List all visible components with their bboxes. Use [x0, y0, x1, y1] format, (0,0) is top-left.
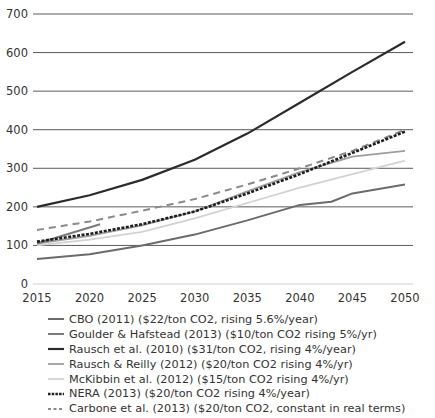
legend-item: Rausch et al. (2010) ($31/ton CO2, risin… — [48, 342, 433, 357]
x-axis-ticks: 20152020202520302035204020452050 — [22, 291, 419, 305]
x-tick-label: 2025 — [128, 291, 157, 305]
y-axis-ticks: 0100200300400500600700 — [6, 7, 28, 291]
legend-label: Carbone et al. (2013) ($20/ton CO2, cons… — [69, 402, 405, 415]
y-tick-label: 500 — [6, 84, 28, 98]
series-line — [37, 132, 405, 242]
legend-label: Goulder & Hafstead (2013) ($10/ton CO2 r… — [69, 328, 377, 341]
y-tick-label: 200 — [6, 200, 28, 214]
x-tick-label: 2015 — [22, 291, 51, 305]
legend-item: CBO (2011) ($22/ton CO2, rising 5.6%/yea… — [48, 312, 433, 327]
legend-item: NERA (2013) ($20/ton CO2 rising 4%/year) — [48, 386, 433, 401]
series-line — [37, 151, 405, 244]
x-tick-label: 2020 — [75, 291, 104, 305]
legend-label: CBO (2011) ($22/ton CO2, rising 5.6%/yea… — [69, 313, 318, 326]
legend-swatch-icon — [48, 375, 64, 383]
legend-label: McKibbin et al. (2012) ($15/ton CO2 risi… — [69, 373, 349, 386]
legend-swatch-icon — [48, 315, 64, 323]
series-line — [37, 42, 405, 207]
x-tick-label: 2040 — [285, 291, 314, 305]
series-line — [37, 130, 405, 230]
legend-swatch-icon — [48, 390, 64, 398]
legend-label: NERA (2013) ($20/ton CO2 rising 4%/year) — [69, 387, 310, 400]
legend-label: Rausch & Reilly (2012) ($20/ton CO2 risi… — [69, 358, 353, 371]
y-tick-label: 100 — [6, 238, 28, 252]
legend-swatch-icon — [48, 360, 64, 368]
y-tick-label: 0 — [21, 277, 28, 291]
chart-legend: CBO (2011) ($22/ton CO2, rising 5.6%/yea… — [48, 312, 433, 416]
legend-swatch-icon — [48, 330, 64, 338]
data-series — [37, 42, 405, 259]
y-tick-label: 400 — [6, 123, 28, 137]
legend-swatch-icon — [48, 405, 64, 413]
y-tick-label: 300 — [6, 161, 28, 175]
legend-label: Rausch et al. (2010) ($31/ton CO2, risin… — [69, 343, 356, 356]
y-tick-label: 600 — [6, 46, 28, 60]
legend-item: McKibbin et al. (2012) ($15/ton CO2 risi… — [48, 372, 433, 387]
x-tick-label: 2030 — [180, 291, 209, 305]
line-chart: 0100200300400500600700 20152020202520302… — [0, 0, 435, 310]
y-tick-label: 700 — [6, 7, 28, 21]
x-tick-label: 2045 — [338, 291, 367, 305]
x-tick-label: 2035 — [233, 291, 262, 305]
legend-item: Rausch & Reilly (2012) ($20/ton CO2 risi… — [48, 357, 433, 372]
x-tick-label: 2050 — [390, 291, 419, 305]
legend-item: Carbone et al. (2013) ($20/ton CO2, cons… — [48, 401, 433, 416]
legend-swatch-icon — [48, 345, 64, 353]
legend-item: Goulder & Hafstead (2013) ($10/ton CO2 r… — [48, 327, 433, 342]
